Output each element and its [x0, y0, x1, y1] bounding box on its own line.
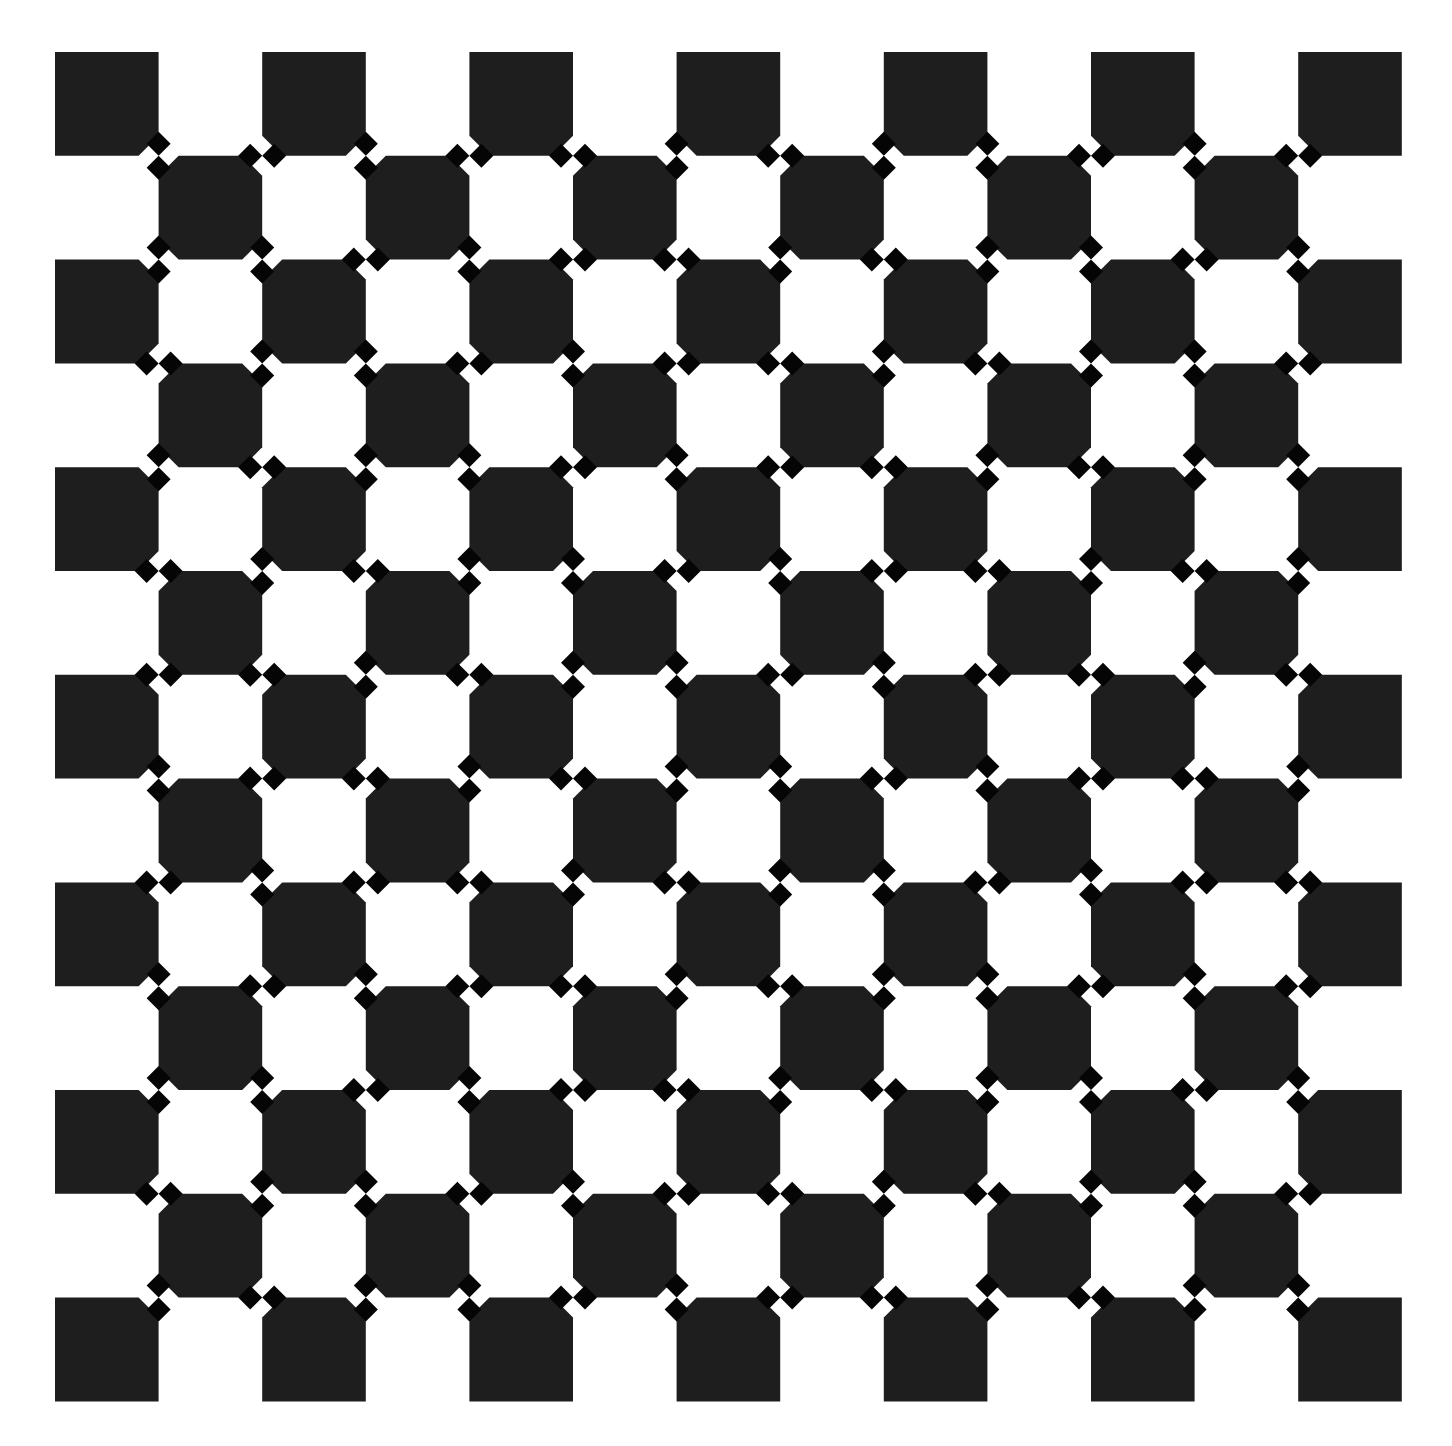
black-square	[469, 260, 573, 364]
black-square	[987, 779, 1091, 883]
black-square	[780, 156, 884, 260]
black-square	[469, 675, 573, 779]
black-square	[1195, 779, 1299, 883]
black-square	[1091, 1298, 1195, 1402]
black-square	[262, 1090, 366, 1194]
black-square	[573, 986, 677, 1090]
black-square	[159, 986, 263, 1090]
black-square	[262, 52, 366, 156]
black-square	[159, 363, 263, 467]
black-square	[1091, 675, 1195, 779]
black-square	[780, 363, 884, 467]
black-square	[55, 1090, 159, 1194]
black-square	[884, 675, 988, 779]
black-square	[262, 260, 366, 364]
black-square	[884, 882, 988, 986]
black-square	[987, 986, 1091, 1090]
checkerboard-illusion	[0, 0, 1452, 1446]
black-square	[677, 882, 781, 986]
black-square	[55, 467, 159, 571]
black-square	[366, 779, 470, 883]
black-square	[1091, 260, 1195, 364]
black-square	[1298, 675, 1402, 779]
black-square	[55, 1298, 159, 1402]
black-square	[366, 986, 470, 1090]
black-square	[469, 1090, 573, 1194]
black-square	[1195, 1194, 1299, 1298]
black-square	[884, 1298, 988, 1402]
black-square	[1298, 52, 1402, 156]
black-square	[1195, 571, 1299, 675]
black-square	[780, 571, 884, 675]
black-square	[573, 571, 677, 675]
black-square	[1091, 467, 1195, 571]
black-square	[677, 1090, 781, 1194]
black-square	[884, 260, 988, 364]
black-square	[469, 467, 573, 571]
black-square	[573, 363, 677, 467]
black-square	[573, 1194, 677, 1298]
black-square	[677, 675, 781, 779]
black-square	[677, 467, 781, 571]
black-square	[1298, 260, 1402, 364]
black-square	[987, 156, 1091, 260]
black-square	[55, 882, 159, 986]
black-square	[262, 1298, 366, 1402]
black-square	[1298, 1090, 1402, 1194]
black-square	[366, 571, 470, 675]
black-square	[1195, 156, 1299, 260]
black-square	[884, 1090, 988, 1194]
black-square	[573, 779, 677, 883]
black-square	[1298, 1298, 1402, 1402]
black-square	[884, 467, 988, 571]
black-square	[366, 156, 470, 260]
black-square	[55, 52, 159, 156]
black-square	[677, 260, 781, 364]
black-square	[159, 1194, 263, 1298]
black-square	[1195, 986, 1299, 1090]
black-square	[159, 156, 263, 260]
black-square	[469, 882, 573, 986]
black-square	[987, 1194, 1091, 1298]
black-square	[159, 571, 263, 675]
black-square	[677, 52, 781, 156]
black-square	[469, 1298, 573, 1402]
black-square	[780, 779, 884, 883]
black-square	[1195, 363, 1299, 467]
black-square	[262, 675, 366, 779]
black-square	[677, 1298, 781, 1402]
black-square	[1091, 1090, 1195, 1194]
black-square	[55, 675, 159, 779]
black-square	[1091, 52, 1195, 156]
black-square	[469, 52, 573, 156]
black-square	[55, 260, 159, 364]
black-square	[780, 1194, 884, 1298]
black-square	[262, 467, 366, 571]
black-square	[262, 882, 366, 986]
black-square	[884, 52, 988, 156]
black-square	[1298, 882, 1402, 986]
black-square	[780, 986, 884, 1090]
black-square	[159, 779, 263, 883]
black-square	[1091, 882, 1195, 986]
black-square	[1298, 467, 1402, 571]
black-square	[987, 363, 1091, 467]
black-square	[366, 1194, 470, 1298]
black-square	[987, 571, 1091, 675]
black-square	[366, 363, 470, 467]
black-square	[573, 156, 677, 260]
